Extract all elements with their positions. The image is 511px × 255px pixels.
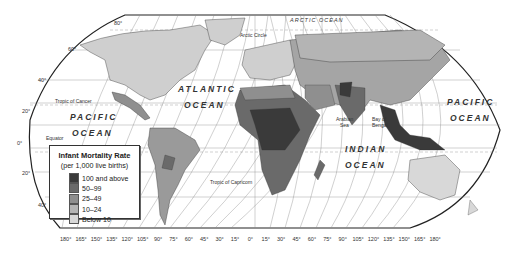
label-equator: Equator <box>46 135 64 141</box>
russia <box>295 30 445 62</box>
legend-swatch <box>69 183 79 193</box>
longitude-tick: 180° <box>427 236 442 242</box>
label-tropic-capricorn: Tropic of Capricorn <box>210 179 252 185</box>
label-pacific-west-ocean: OCEAN <box>72 128 113 138</box>
longitude-tick: 150° <box>89 236 104 242</box>
longitude-tick: 135° <box>104 236 119 242</box>
label-arctic-circle: Arctic Circle <box>240 32 267 38</box>
label-indian-ocean: OCEAN <box>345 160 386 170</box>
longitude-tick: 105° <box>350 236 365 242</box>
label-pacific-east-ocean: OCEAN <box>450 113 491 123</box>
legend-label: 50–99 <box>82 185 101 192</box>
label-atlantic-ocean: OCEAN <box>184 100 225 110</box>
legend-item: 100 and above <box>69 173 139 183</box>
longitude-tick: 90° <box>335 236 350 242</box>
label-indian: INDIAN <box>345 144 386 154</box>
legend-subtitle: (per 1,000 live births) <box>50 161 139 170</box>
longitude-tick: 0° <box>243 236 258 242</box>
legend-items: 100 and above 50–99 25–49 10–24 Below 10 <box>69 173 139 224</box>
lat-label-40s: 40° <box>38 202 46 208</box>
longitude-tick: 45° <box>289 236 304 242</box>
label-pacific-west: PACIFIC <box>70 112 117 122</box>
legend-title: Infant Mortality Rate <box>50 151 139 160</box>
lat-label-20n: 20° <box>22 108 30 114</box>
lat-label-80: 80° <box>114 20 122 26</box>
longitude-tick: 15° <box>227 236 242 242</box>
longitude-tick: 120° <box>366 236 381 242</box>
longitude-tick: 75° <box>320 236 335 242</box>
legend-item: Below 10 <box>69 214 139 224</box>
legend-item: 25–49 <box>69 194 139 204</box>
legend-swatch <box>69 194 79 204</box>
longitude-tick: 30° <box>212 236 227 242</box>
legend-label: 100 and above <box>82 175 128 182</box>
legend-label: 25–49 <box>82 195 101 202</box>
longitude-tick: 75° <box>166 236 181 242</box>
longitude-tick: 60° <box>181 236 196 242</box>
longitude-ticks: 180°165°150°135°120°105°90°75°60°45°30°1… <box>58 236 443 242</box>
label-pacific-east: PACIFIC <box>447 97 494 107</box>
legend-item: 10–24 <box>69 204 139 214</box>
legend-swatch <box>69 214 79 224</box>
legend-label: Below 10 <box>82 216 111 223</box>
new-zealand <box>468 200 478 215</box>
longitude-tick: 165° <box>73 236 88 242</box>
longitude-tick: 150° <box>397 236 412 242</box>
longitude-tick: 165° <box>412 236 427 242</box>
lat-label-40n: 40° <box>38 77 46 83</box>
longitude-tick: 15° <box>258 236 273 242</box>
lat-label-20s: 20° <box>22 170 30 176</box>
longitude-tick: 135° <box>381 236 396 242</box>
label-arabian-sea-2: Sea <box>340 122 349 128</box>
longitude-tick: 45° <box>197 236 212 242</box>
longitude-tick: 120° <box>120 236 135 242</box>
legend-item: 50–99 <box>69 183 139 193</box>
legend-label: 10–24 <box>82 206 101 213</box>
label-bay-of-bengal-2: Bengal <box>372 122 388 128</box>
longitude-tick: 105° <box>135 236 150 242</box>
label-tropic-cancer: Tropic of Cancer <box>55 98 92 104</box>
label-atlantic: ATLANTIC <box>178 84 236 94</box>
label-arctic-ocean: ARCTIC OCEAN <box>290 17 344 23</box>
longitude-tick: 60° <box>304 236 319 242</box>
legend: Infant Mortality Rate (per 1,000 live bi… <box>49 145 140 219</box>
lat-label-60: 60° <box>68 46 76 52</box>
longitude-tick: 180° <box>58 236 73 242</box>
legend-swatch <box>69 204 79 214</box>
lat-label-0: 0° <box>17 140 22 146</box>
longitude-tick: 90° <box>150 236 165 242</box>
legend-swatch <box>69 173 79 183</box>
longitude-tick: 30° <box>273 236 288 242</box>
